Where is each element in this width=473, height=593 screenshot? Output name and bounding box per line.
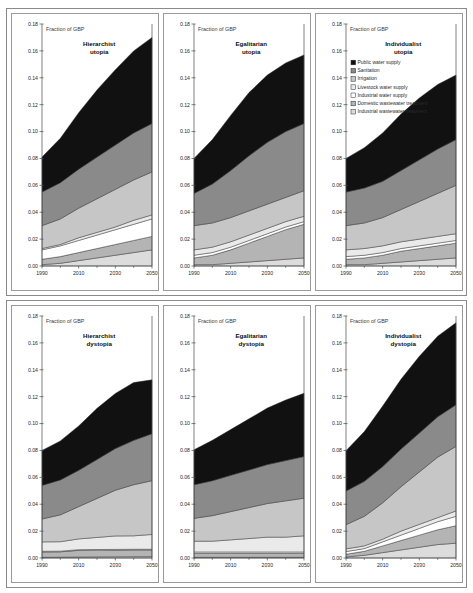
- chart-svg-hierarchist-dystopia: 0.000.020.040.060.080.100.120.140.160.18…: [12, 306, 158, 582]
- y-tick-label: 0.16: [28, 48, 38, 54]
- y-tick-label: 0.02: [332, 236, 342, 242]
- legend-label-0: Public water supply: [357, 59, 401, 65]
- panel-title-line1: Egalitarian: [235, 332, 267, 339]
- y-axis-ticks: 0.000.020.040.060.080.100.120.140.160.18: [332, 313, 348, 561]
- x-tick-label: 2010: [73, 562, 85, 568]
- y-tick-label: 0.12: [180, 394, 190, 400]
- x-axis-ticks: 1990201020302050: [36, 558, 158, 568]
- legend-swatch-3: [351, 85, 356, 90]
- x-tick-label: 1990: [340, 562, 352, 568]
- chart-panel-hierarchist-utopia[interactable]: 0.000.020.040.060.080.100.120.140.160.18…: [11, 13, 159, 291]
- chart-panel-egalitarian-dystopia[interactable]: 0.000.020.040.060.080.100.120.140.160.18…: [163, 305, 311, 583]
- y-tick-label: 0.02: [180, 528, 190, 534]
- x-axis-ticks: 1990201020302050: [188, 266, 310, 276]
- x-tick-label: 2010: [225, 562, 237, 568]
- y-tick-label: 0.06: [28, 474, 38, 480]
- x-tick-label: 2010: [377, 562, 389, 568]
- y-tick-label: 0.00: [28, 263, 38, 269]
- legend-label-1: Sanitation: [357, 67, 379, 73]
- series-area-domestic-wastewater-treatment: [194, 553, 304, 557]
- y-tick-label: 0.04: [180, 501, 190, 507]
- y-tick-label: 0.08: [180, 155, 190, 161]
- y-axis-ticks: 0.000.020.040.060.080.100.120.140.160.18: [28, 313, 44, 561]
- panel-row-utopia: 0.000.020.040.060.080.100.120.140.160.18…: [6, 8, 467, 296]
- panel-title-line1: Egalitarian: [235, 40, 267, 47]
- chart-panel-egalitarian-utopia[interactable]: 0.000.020.040.060.080.100.120.140.160.18…: [163, 13, 311, 291]
- y-tick-label: 0.14: [28, 75, 38, 81]
- y-tick-label: 0.18: [28, 21, 38, 27]
- x-tick-label: 2050: [450, 270, 462, 276]
- y-tick-label: 0.00: [180, 263, 190, 269]
- y-tick-label: 0.04: [332, 209, 342, 215]
- y-tick-label: 0.14: [332, 367, 342, 373]
- y-tick-label: 0.18: [180, 21, 190, 27]
- x-tick-label: 2030: [414, 270, 426, 276]
- y-tick-label: 0.18: [332, 313, 342, 319]
- x-tick-label: 2030: [414, 562, 426, 568]
- y-tick-label: 0.08: [180, 447, 190, 453]
- y-tick-label: 0.06: [180, 474, 190, 480]
- y-tick-label: 0.04: [28, 501, 38, 507]
- y-tick-label: 0.08: [332, 447, 342, 453]
- panel-row-dystopia: 0.000.020.040.060.080.100.120.140.160.18…: [6, 300, 467, 588]
- x-tick-label: 1990: [188, 270, 200, 276]
- y-tick-label: 0.04: [180, 209, 190, 215]
- chart-panel-hierarchist-dystopia[interactable]: 0.000.020.040.060.080.100.120.140.160.18…: [11, 305, 159, 583]
- x-axis-ticks: 1990201020302050: [36, 266, 158, 276]
- y-axis-unit-label: Fraction of GBP: [46, 318, 85, 324]
- chart-panel-individualist-dystopia[interactable]: 0.000.020.040.060.080.100.120.140.160.18…: [315, 305, 463, 583]
- y-tick-label: 0.12: [28, 394, 38, 400]
- legend-swatch-1: [351, 68, 356, 73]
- x-tick-label: 2050: [298, 270, 310, 276]
- y-tick-label: 0.14: [180, 367, 190, 373]
- y-tick-label: 0.06: [332, 474, 342, 480]
- panel-title-line2: utopia: [394, 48, 413, 55]
- y-axis-ticks: 0.000.020.040.060.080.100.120.140.160.18: [332, 21, 348, 269]
- y-tick-label: 0.12: [332, 394, 342, 400]
- x-tick-label: 2010: [377, 270, 389, 276]
- legend-label-2: Irrigation: [357, 75, 377, 81]
- y-tick-label: 0.02: [332, 528, 342, 534]
- y-tick-label: 0.08: [332, 155, 342, 161]
- y-axis-ticks: 0.000.020.040.060.080.100.120.140.160.18: [28, 21, 44, 269]
- y-axis-ticks: 0.000.020.040.060.080.100.120.140.160.18: [180, 21, 196, 269]
- chart-svg-hierarchist-utopia: 0.000.020.040.060.080.100.120.140.160.18…: [12, 14, 158, 290]
- x-tick-label: 1990: [188, 562, 200, 568]
- y-tick-label: 0.04: [332, 501, 342, 507]
- y-tick-label: 0.10: [180, 128, 190, 134]
- y-tick-label: 0.00: [180, 555, 190, 561]
- y-tick-label: 0.06: [28, 182, 38, 188]
- panel-title-line2: dystopia: [86, 340, 112, 347]
- chart-panel-individualist-utopia[interactable]: 0.000.020.040.060.080.100.120.140.160.18…: [315, 13, 463, 291]
- x-tick-label: 2030: [262, 562, 274, 568]
- legend-swatch-2: [351, 77, 356, 82]
- x-tick-label: 1990: [36, 270, 48, 276]
- panel-title-line1: Individualist: [385, 332, 421, 339]
- x-tick-label: 2050: [450, 562, 462, 568]
- y-tick-label: 0.14: [28, 367, 38, 373]
- y-tick-label: 0.14: [332, 75, 342, 81]
- y-tick-label: 0.16: [332, 340, 342, 346]
- y-axis-unit-label: Fraction of GBP: [350, 318, 389, 324]
- y-tick-label: 0.00: [332, 555, 342, 561]
- y-tick-label: 0.02: [28, 528, 38, 534]
- legend-swatch-5: [351, 101, 356, 106]
- y-tick-label: 0.00: [28, 555, 38, 561]
- legend-label-5: Domestic wastewater treatment: [357, 100, 428, 106]
- y-axis-unit-label: Fraction of GBP: [46, 26, 85, 32]
- panel-title-line2: dystopia: [390, 340, 416, 347]
- x-tick-label: 2030: [262, 270, 274, 276]
- y-tick-label: 0.10: [180, 420, 190, 426]
- y-axis-unit-label: Fraction of GBP: [198, 318, 237, 324]
- y-tick-label: 0.12: [180, 102, 190, 108]
- chart-svg-individualist-utopia: 0.000.020.040.060.080.100.120.140.160.18…: [316, 14, 462, 290]
- chart-svg-individualist-dystopia: 0.000.020.040.060.080.100.120.140.160.18…: [316, 306, 462, 582]
- y-axis-unit-label: Fraction of GBP: [198, 26, 237, 32]
- y-tick-label: 0.02: [28, 236, 38, 242]
- x-tick-label: 2030: [110, 270, 122, 276]
- chart-svg-egalitarian-utopia: 0.000.020.040.060.080.100.120.140.160.18…: [164, 14, 310, 290]
- x-axis-ticks: 1990201020302050: [340, 558, 462, 568]
- y-tick-label: 0.10: [28, 128, 38, 134]
- x-tick-label: 2030: [110, 562, 122, 568]
- x-tick-label: 2010: [73, 270, 85, 276]
